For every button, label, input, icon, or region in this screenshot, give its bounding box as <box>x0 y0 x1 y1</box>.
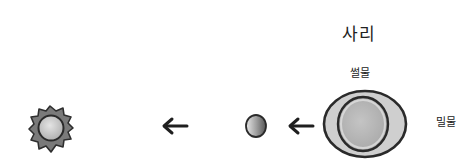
flood-tide-label: 밀물 <box>436 113 456 129</box>
ebb-tide-label: 썰물 <box>350 64 370 80</box>
arrow-left-icon <box>290 119 313 133</box>
arrow-left-icon <box>164 119 187 133</box>
earth-with-tidal-bulge-icon <box>324 91 406 157</box>
moon-icon <box>246 115 266 137</box>
tide-diagram <box>0 0 462 166</box>
earth-body <box>338 97 388 151</box>
sun-core <box>39 116 64 141</box>
diagram-title: 사리 <box>342 20 376 45</box>
sun-icon <box>29 106 73 152</box>
